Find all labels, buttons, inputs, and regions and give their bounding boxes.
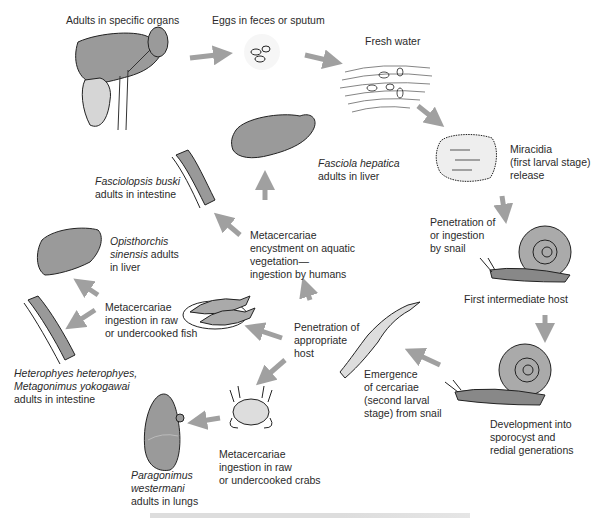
intestine-icon (24, 296, 75, 364)
liver-kidney-intestine-icon (76, 27, 168, 130)
stage-vegetation-label: Metacercariae encystment on aquatic vege… (250, 229, 355, 281)
arrow (190, 54, 225, 58)
species-heterophyes-label: Heterophyes heterophyes, Metagonimus yok… (14, 367, 137, 406)
stage-development-label: Development into sporocyst and redial ge… (490, 418, 573, 457)
stage-penetration-host-label: Penetration of appropriate host (294, 321, 359, 360)
stage-miracidia-label: Miracidia (first larval stage) release (510, 143, 591, 182)
species-fasciola-label: Fasciola hepatica adults in liver (318, 157, 400, 183)
species-opisthorchis-label: Opisthorchis sinensis adults in liver (110, 235, 179, 274)
fresh-water-icon (340, 66, 432, 112)
figure-caption-clipped (150, 510, 470, 518)
stage-eggs-label: Eggs in feces or sputum (212, 14, 325, 27)
liver-icon (37, 228, 101, 275)
stage-adults-label: Adults in specific organs (66, 14, 179, 27)
eggs-icon (244, 34, 280, 70)
crab-icon (230, 386, 272, 428)
first-intermediate-host-label: First intermediate host (464, 293, 568, 306)
species-fasciolopsis-label: Fasciolopsis buski adults in intestine (95, 175, 180, 201)
lung-icon (144, 394, 184, 470)
miracidium-icon (436, 135, 496, 182)
stage-cercariae-label: Emergence of cercariae (second larval st… (364, 368, 442, 420)
stage-fish-label: Metacercariae ingestion in raw or underc… (105, 301, 197, 340)
species-paragonimus-label: Paragonimus westermani adults in lungs (131, 469, 198, 508)
stage-water-label: Fresh water (365, 35, 420, 48)
stage-crabs-label: Metacercariae ingestion in raw or underc… (219, 448, 321, 487)
snail-icon (445, 344, 551, 405)
stage-snail-penetration-label: Penetration of or ingestion by snail (430, 216, 495, 255)
liver-icon (232, 115, 315, 158)
